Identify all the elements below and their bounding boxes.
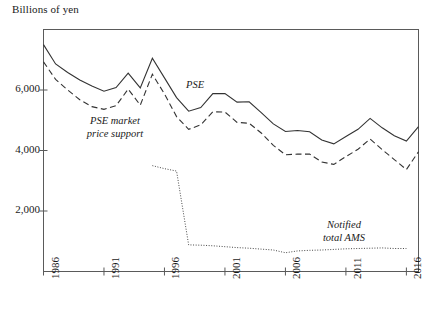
y-tick-label: 4,000 [0, 143, 40, 155]
series-label-notified-total-ams: Notified total AMS [300, 218, 388, 244]
x-tick-label: 2016 [411, 257, 423, 279]
series-label-line1: Notified [300, 218, 388, 231]
series-label-pse-market-price-support: PSE market price support [59, 114, 171, 140]
x-tick-label: 1986 [49, 257, 61, 279]
x-tick-label: 1991 [109, 257, 121, 279]
series-label-pse: PSE [186, 78, 204, 91]
series-label-line2: total AMS [300, 231, 388, 244]
series-label-line1: PSE market [59, 114, 171, 127]
x-tick-label: 2011 [351, 257, 363, 279]
x-tick-label: 2001 [230, 257, 242, 279]
plot-area [0, 0, 436, 318]
x-tick-label: 1996 [169, 257, 181, 279]
y-tick-label: 2,000 [0, 203, 40, 215]
series-label-line2: price support [59, 127, 171, 140]
x-tick-label: 2006 [290, 257, 302, 279]
chart-figure: Billions of yen 2,000 4,000 6,000 198619… [0, 0, 436, 318]
y-tick-label: 6,000 [0, 82, 40, 94]
